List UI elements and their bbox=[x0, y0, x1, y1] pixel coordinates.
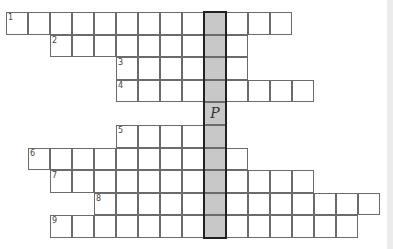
crossword-cell[interactable] bbox=[226, 215, 248, 238]
crossword-cell[interactable] bbox=[138, 57, 160, 80]
crossword-cell[interactable] bbox=[138, 12, 160, 35]
crossword-cell-highlighted[interactable] bbox=[204, 148, 226, 171]
crossword-cell-highlighted[interactable] bbox=[204, 57, 226, 80]
crossword-cell[interactable] bbox=[160, 12, 182, 35]
crossword-cell[interactable] bbox=[182, 215, 204, 238]
crossword-cell[interactable]: 4 bbox=[116, 80, 138, 103]
crossword-cell[interactable] bbox=[182, 12, 204, 35]
crossword-cell[interactable] bbox=[226, 193, 248, 216]
crossword-cell[interactable]: 5 bbox=[116, 125, 138, 148]
clue-number: 7 bbox=[52, 171, 57, 180]
crossword-cell[interactable] bbox=[292, 193, 314, 216]
crossword-cell[interactable] bbox=[160, 80, 182, 103]
crossword-cell[interactable] bbox=[270, 80, 292, 103]
crossword-cell[interactable] bbox=[226, 80, 248, 103]
crossword-cell[interactable] bbox=[50, 148, 72, 171]
crossword-cell[interactable] bbox=[116, 35, 138, 58]
crossword-cell-highlighted[interactable] bbox=[204, 80, 226, 103]
clue-number: 8 bbox=[96, 194, 101, 203]
crossword-cell[interactable]: 2 bbox=[50, 35, 72, 58]
crossword-cell[interactable] bbox=[182, 148, 204, 171]
crossword-cell[interactable] bbox=[226, 148, 248, 171]
crossword-cell[interactable] bbox=[248, 80, 270, 103]
crossword-cell[interactable] bbox=[248, 215, 270, 238]
crossword-cell[interactable] bbox=[270, 193, 292, 216]
crossword-cell-highlighted[interactable] bbox=[204, 170, 226, 193]
crossword-cell-highlighted[interactable] bbox=[204, 193, 226, 216]
crossword-cell[interactable] bbox=[182, 80, 204, 103]
crossword-cell[interactable] bbox=[248, 193, 270, 216]
crossword-cell[interactable] bbox=[138, 148, 160, 171]
crossword-cell-highlighted[interactable] bbox=[204, 35, 226, 58]
crossword-cell[interactable] bbox=[160, 57, 182, 80]
crossword-cell[interactable] bbox=[292, 215, 314, 238]
crossword-cell[interactable]: 3 bbox=[116, 57, 138, 80]
crossword-cell[interactable] bbox=[138, 215, 160, 238]
crossword-cell[interactable] bbox=[94, 215, 116, 238]
crossword-cell[interactable] bbox=[314, 193, 336, 216]
crossword-cell[interactable] bbox=[116, 193, 138, 216]
crossword-cell[interactable] bbox=[160, 215, 182, 238]
crossword-cell[interactable] bbox=[226, 170, 248, 193]
crossword-cell[interactable] bbox=[336, 215, 358, 238]
crossword-cell-highlighted[interactable]: P bbox=[204, 102, 226, 125]
crossword-cell[interactable] bbox=[72, 148, 94, 171]
crossword-cell[interactable] bbox=[358, 193, 380, 216]
crossword-cell[interactable] bbox=[28, 12, 50, 35]
crossword-cell[interactable] bbox=[226, 12, 248, 35]
clue-number: 1 bbox=[8, 13, 13, 22]
crossword-cell[interactable] bbox=[138, 80, 160, 103]
crossword-cell[interactable]: 8 bbox=[94, 193, 116, 216]
crossword-cell[interactable] bbox=[336, 193, 358, 216]
crossword-cell[interactable] bbox=[160, 125, 182, 148]
crossword-cell[interactable] bbox=[270, 170, 292, 193]
crossword-cell-highlighted[interactable] bbox=[204, 125, 226, 148]
crossword-cell[interactable] bbox=[138, 125, 160, 148]
crossword-cell[interactable] bbox=[72, 12, 94, 35]
crossword-cell[interactable]: 1 bbox=[6, 12, 28, 35]
crossword-cell[interactable] bbox=[138, 193, 160, 216]
clue-number: 2 bbox=[52, 36, 57, 45]
crossword-cell[interactable] bbox=[160, 170, 182, 193]
crossword-cell[interactable] bbox=[314, 215, 336, 238]
crossword-cell[interactable] bbox=[116, 215, 138, 238]
crossword-cell[interactable] bbox=[248, 170, 270, 193]
crossword-cell[interactable] bbox=[270, 215, 292, 238]
crossword-cell[interactable] bbox=[226, 57, 248, 80]
scrollbar-track[interactable] bbox=[387, 0, 393, 249]
crossword-cell[interactable] bbox=[270, 12, 292, 35]
crossword-cell[interactable] bbox=[50, 12, 72, 35]
crossword-cell[interactable]: 7 bbox=[50, 170, 72, 193]
crossword-cell[interactable] bbox=[72, 215, 94, 238]
crossword-cell[interactable] bbox=[72, 35, 94, 58]
clue-number: 4 bbox=[118, 81, 123, 90]
crossword-cell[interactable] bbox=[72, 170, 94, 193]
crossword-cell[interactable] bbox=[116, 170, 138, 193]
crossword-cell-highlighted[interactable] bbox=[204, 12, 226, 35]
clue-number: 3 bbox=[118, 58, 123, 67]
crossword-cell[interactable] bbox=[182, 35, 204, 58]
clue-number: 9 bbox=[52, 216, 57, 225]
crossword-cell[interactable] bbox=[116, 148, 138, 171]
crossword-cell[interactable] bbox=[182, 170, 204, 193]
crossword-cell[interactable] bbox=[160, 35, 182, 58]
crossword-cell[interactable] bbox=[94, 35, 116, 58]
crossword-cell[interactable] bbox=[292, 80, 314, 103]
crossword-cell[interactable]: 6 bbox=[28, 148, 50, 171]
crossword-cell[interactable] bbox=[138, 35, 160, 58]
crossword-cell[interactable] bbox=[160, 148, 182, 171]
crossword-cell[interactable] bbox=[182, 57, 204, 80]
crossword-cell[interactable] bbox=[94, 170, 116, 193]
crossword-cell[interactable] bbox=[116, 12, 138, 35]
crossword-cell[interactable] bbox=[182, 193, 204, 216]
crossword-cell[interactable] bbox=[94, 148, 116, 171]
crossword-cell[interactable]: 9 bbox=[50, 215, 72, 238]
crossword-cell-highlighted[interactable] bbox=[204, 215, 226, 238]
crossword-cell[interactable] bbox=[182, 125, 204, 148]
crossword-cell[interactable] bbox=[160, 193, 182, 216]
crossword-cell[interactable] bbox=[248, 12, 270, 35]
crossword-cell[interactable] bbox=[292, 170, 314, 193]
crossword-cell[interactable] bbox=[138, 170, 160, 193]
crossword-cell[interactable] bbox=[226, 35, 248, 58]
crossword-cell[interactable] bbox=[94, 12, 116, 35]
